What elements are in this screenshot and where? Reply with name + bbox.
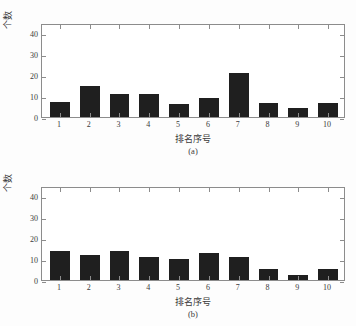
- x-tick-mark: [179, 25, 180, 29]
- x-tick-label: 3: [116, 120, 120, 129]
- x-tick-mark: [119, 113, 120, 117]
- y-tick-label: 20: [30, 235, 38, 244]
- x-tick-label: 7: [236, 283, 240, 292]
- bar-series-b: [42, 188, 344, 280]
- y-tick-mark: [340, 77, 344, 78]
- x-tick-label: 2: [87, 283, 91, 292]
- x-tick-mark: [149, 276, 150, 280]
- x-tick-label: 1: [57, 283, 61, 292]
- x-tick-mark: [119, 188, 120, 192]
- x-tick-mark: [328, 276, 329, 280]
- bar: [229, 73, 249, 117]
- y-tick-mark: [340, 261, 344, 262]
- y-tick-label: 40: [30, 193, 38, 202]
- x-axis-title-b: 排名序号: [41, 295, 345, 308]
- x-tick-mark: [90, 113, 91, 117]
- subfigure-caption-a: (a): [41, 146, 345, 156]
- y-tick-mark: [42, 35, 46, 36]
- y-tick-mark: [42, 261, 46, 262]
- figure-container: 个数 010203040 12345678910 排名序号 (a) 个数 010…: [0, 0, 356, 326]
- y-tick-mark: [42, 98, 46, 99]
- x-tick-mark: [209, 25, 210, 29]
- x-tick-label: 5: [176, 120, 180, 129]
- x-tick-mark: [90, 276, 91, 280]
- x-tick-mark: [60, 25, 61, 29]
- x-axis-title-a: 排名序号: [41, 132, 345, 145]
- x-tick-label: 2: [87, 120, 91, 129]
- x-tick-mark: [269, 276, 270, 280]
- x-axis-ticks-b: 12345678910: [41, 283, 345, 295]
- x-tick-mark: [239, 113, 240, 117]
- x-tick-label: 8: [266, 120, 270, 129]
- x-tick-label: 6: [206, 120, 210, 129]
- x-tick-label: 3: [116, 283, 120, 292]
- plot-area-b: [41, 187, 345, 281]
- x-tick-mark: [119, 25, 120, 29]
- x-tick-mark: [149, 188, 150, 192]
- x-tick-mark: [60, 113, 61, 117]
- y-tick-mark: [340, 35, 344, 36]
- x-tick-mark: [269, 25, 270, 29]
- x-tick-mark: [119, 276, 120, 280]
- x-tick-mark: [239, 276, 240, 280]
- x-tick-mark: [209, 276, 210, 280]
- x-tick-mark: [298, 276, 299, 280]
- y-tick-mark: [340, 219, 344, 220]
- x-tick-mark: [179, 276, 180, 280]
- x-axis-ticks-a: 12345678910: [41, 120, 345, 132]
- plot-area-a: [41, 24, 345, 118]
- x-tick-mark: [328, 25, 329, 29]
- y-tick-label: 30: [30, 214, 38, 223]
- y-axis-title-a: 个数: [1, 0, 14, 50]
- y-tick-label: 0: [34, 114, 38, 123]
- y-tick-mark: [42, 56, 46, 57]
- subfigure-caption-b: (b): [41, 309, 345, 319]
- y-tick-label: 10: [30, 93, 38, 102]
- x-tick-mark: [90, 25, 91, 29]
- x-tick-mark: [298, 113, 299, 117]
- y-tick-mark: [42, 198, 46, 199]
- y-tick-mark: [42, 219, 46, 220]
- y-axis-ticks-b: 010203040: [18, 183, 38, 283]
- x-tick-mark: [90, 188, 91, 192]
- x-tick-mark: [179, 113, 180, 117]
- x-tick-mark: [60, 188, 61, 192]
- y-tick-mark: [340, 56, 344, 57]
- x-tick-mark: [209, 113, 210, 117]
- y-tick-label: 10: [30, 256, 38, 265]
- y-axis-ticks-a: 010203040: [18, 20, 38, 120]
- x-tick-label: 6: [206, 283, 210, 292]
- x-tick-mark: [298, 188, 299, 192]
- x-tick-mark: [269, 113, 270, 117]
- x-tick-label: 4: [146, 283, 150, 292]
- x-tick-label: 5: [176, 283, 180, 292]
- x-tick-mark: [209, 188, 210, 192]
- y-tick-mark: [42, 77, 46, 78]
- x-tick-mark: [239, 188, 240, 192]
- x-tick-mark: [269, 188, 270, 192]
- x-tick-mark: [149, 25, 150, 29]
- x-tick-label: 8: [266, 283, 270, 292]
- x-tick-label: 10: [323, 283, 331, 292]
- y-tick-mark: [42, 240, 46, 241]
- x-tick-mark: [298, 25, 299, 29]
- y-tick-label: 40: [30, 30, 38, 39]
- y-tick-mark: [340, 198, 344, 199]
- x-tick-label: 9: [295, 120, 299, 129]
- x-tick-mark: [328, 113, 329, 117]
- bar-series-a: [42, 25, 344, 117]
- x-tick-mark: [328, 188, 329, 192]
- x-tick-label: 9: [295, 283, 299, 292]
- y-tick-label: 30: [30, 51, 38, 60]
- y-tick-label: 20: [30, 72, 38, 81]
- x-tick-mark: [60, 276, 61, 280]
- x-tick-label: 7: [236, 120, 240, 129]
- y-tick-mark: [340, 240, 344, 241]
- x-tick-mark: [179, 188, 180, 192]
- x-tick-mark: [239, 25, 240, 29]
- y-tick-mark: [340, 98, 344, 99]
- x-tick-label: 1: [57, 120, 61, 129]
- x-tick-label: 10: [323, 120, 331, 129]
- y-axis-title-b: 个数: [1, 153, 14, 213]
- x-tick-label: 4: [146, 120, 150, 129]
